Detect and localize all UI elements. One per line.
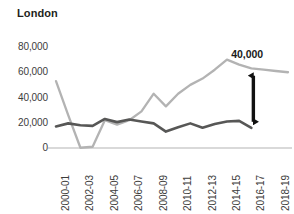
annotation-label: 40,000 <box>231 48 263 60</box>
plot-area <box>0 0 294 214</box>
line-series-dark <box>56 119 251 132</box>
chart-container: London 020,00040,00060,00080,000 2000-01… <box>0 0 294 214</box>
